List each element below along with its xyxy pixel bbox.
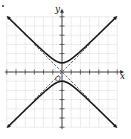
- origin-label: O: [55, 75, 61, 83]
- x-axis-label: x: [120, 71, 125, 81]
- hyperbola-plot: x y O: [0, 0, 131, 139]
- bullet-dot: [2, 5, 4, 7]
- y-axis-label: y: [54, 4, 61, 14]
